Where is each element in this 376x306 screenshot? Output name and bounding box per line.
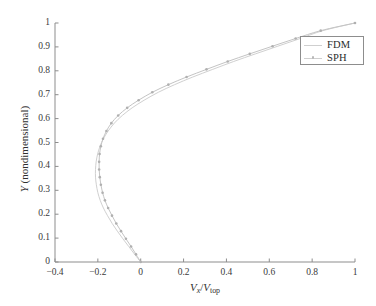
- series-marker-dot: [139, 261, 142, 264]
- series-marker-dot: [185, 76, 188, 79]
- y-axis-ticks: [55, 23, 59, 262]
- series-marker-dot: [137, 99, 140, 102]
- legend-swatch-fdm: [301, 39, 325, 51]
- x-tick-label: 0.6: [263, 268, 275, 278]
- x-tick-label: 0.2: [178, 268, 190, 278]
- series-marker-dot: [151, 91, 154, 94]
- legend-entry-sph: SPH: [301, 51, 363, 64]
- series-marker-dot: [135, 253, 138, 256]
- legend-line-icon: [304, 45, 322, 46]
- series-marker-dot: [294, 37, 297, 40]
- x-axis-ticks: [55, 259, 355, 263]
- series-marker-dot: [115, 222, 118, 225]
- y-tick-label: 0: [18, 257, 50, 267]
- x-tick-label: 0: [138, 268, 143, 278]
- series-marker-dot: [125, 238, 128, 241]
- series-marker-dot: [271, 45, 274, 48]
- x-axis-title: Vx/Vtop: [190, 281, 220, 295]
- series-marker-dot: [101, 191, 104, 194]
- y-tick-label: 1: [18, 18, 50, 28]
- series-marker-dot: [98, 176, 101, 179]
- y-title-var: Y: [18, 186, 30, 192]
- series-marker-dot: [98, 153, 101, 156]
- series-marker-dot: [104, 199, 107, 202]
- y-tick-label: 0.9: [18, 42, 50, 52]
- series-marker-dot: [98, 168, 101, 171]
- series-marker-dot: [319, 29, 322, 32]
- x-title-v1: V: [190, 281, 197, 293]
- series-marker-dot: [117, 114, 120, 117]
- x-tick-label: 1: [353, 268, 358, 278]
- legend-label-sph: SPH: [325, 52, 347, 63]
- y-title-rest: (nondimensional): [18, 106, 30, 186]
- series-marker-dot: [102, 137, 105, 140]
- series-marker-dot: [126, 107, 129, 110]
- y-tick-label: 0.1: [18, 233, 50, 243]
- series-marker-dot: [100, 145, 103, 148]
- legend-entry-fdm: FDM: [301, 38, 363, 51]
- series-marker-dot: [248, 53, 251, 56]
- series-marker-dot: [205, 68, 208, 71]
- series-marker-dot: [107, 207, 110, 210]
- series-marker-dot: [105, 130, 108, 133]
- series-marker-dot: [226, 60, 229, 63]
- series-marker-dot: [111, 214, 114, 217]
- series-marker-dot: [354, 22, 357, 25]
- series-marker-dot: [98, 161, 101, 164]
- series-marker-dot: [120, 230, 123, 233]
- series-marker-dot: [130, 245, 133, 248]
- x-tick-label: −0.2: [89, 268, 106, 278]
- legend-label-fdm: FDM: [325, 39, 350, 50]
- chart-figure: −0.4−0.200.20.40.60.81 00.10.20.30.40.50…: [0, 0, 376, 306]
- y-axis-title: Y (nondimensional): [18, 79, 30, 219]
- legend-swatch-sph: [301, 52, 325, 64]
- series-marker-dot: [110, 122, 113, 125]
- x-title-sub2: top: [210, 286, 220, 295]
- x-tick-label: 0.8: [306, 268, 318, 278]
- x-tick-label: 0.4: [220, 268, 232, 278]
- series-marker-dot: [167, 83, 170, 86]
- chart-legend: FDM SPH: [300, 36, 364, 65]
- x-tick-label: −0.4: [46, 268, 63, 278]
- series-marker-dot: [100, 184, 103, 187]
- y-tick-label: 0.8: [18, 66, 50, 76]
